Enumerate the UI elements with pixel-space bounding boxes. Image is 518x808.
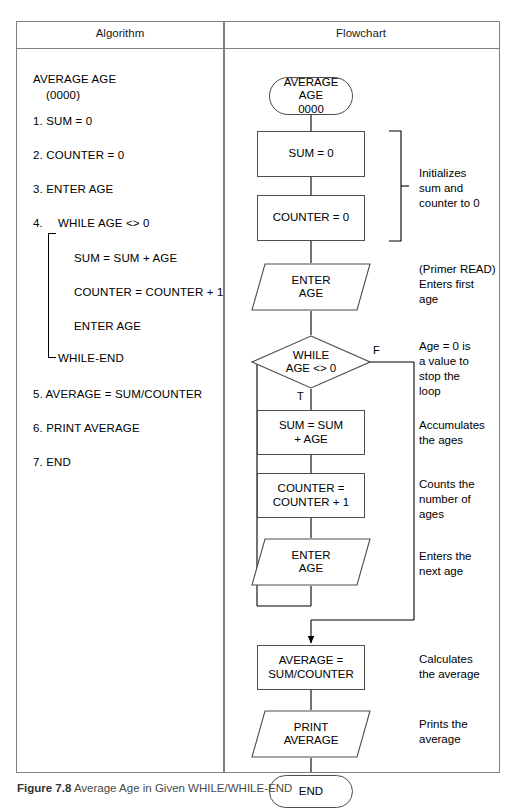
flowchart-node-counter-increment: COUNTER = COUNTER + 1 <box>257 473 365 518</box>
print-line-2: AVERAGE <box>284 734 339 748</box>
algorithm-title: AVERAGE AGE <box>33 73 116 85</box>
algorithm-step-4-number: 4. <box>33 217 43 229</box>
figure-caption-label: Figure 7.8 <box>17 782 71 794</box>
note-initialize: Initializes sum and counter to 0 <box>419 166 480 211</box>
flowchart-node-print-average: PRINT AVERAGE <box>251 710 371 758</box>
average-line-1: AVERAGE = <box>279 654 344 668</box>
column-header-algorithm: Algorithm <box>17 27 223 39</box>
algorithm-step-4-enter: ENTER AGE <box>74 320 141 332</box>
start-line-3: 0000 <box>298 103 324 117</box>
algorithm-step-4-counter: COUNTER = COUNTER + 1 <box>74 286 223 298</box>
branch-label-true: T <box>297 390 304 402</box>
algorithm-step-5: 5. AVERAGE = SUM/COUNTER <box>33 388 202 400</box>
algorithm-step-4-sum: SUM = SUM + AGE <box>74 252 177 264</box>
note-next-age: Enters the next age <box>419 549 471 579</box>
column-header-flowchart: Flowchart <box>223 27 499 39</box>
note-accumulate: Accumulates the ages <box>419 418 485 448</box>
sum-accum-line-2: + AGE <box>294 433 328 447</box>
algorithm-flowchart-table: Algorithm Flowchart AVERAGE AGE (0000) 1… <box>16 21 500 773</box>
decision-line-2: AGE <> 0 <box>286 362 337 376</box>
flowchart-node-average: AVERAGE = SUM/COUNTER <box>257 645 365 690</box>
enter-age-primer-line-1: ENTER <box>292 274 331 288</box>
flowchart-node-start: AVERAGE AGE 0000 <box>269 77 353 115</box>
flowchart-node-enter-age-next: ENTER AGE <box>251 538 371 586</box>
algorithm-step-4-while: WHILE AGE <> 0 <box>58 217 150 229</box>
algorithm-step-6: 6. PRINT AVERAGE <box>33 422 140 434</box>
while-loop-bracket <box>48 233 56 358</box>
algorithm-step-7: 7. END <box>33 456 71 468</box>
start-line-1: AVERAGE <box>284 76 339 90</box>
note-stop-loop: Age = 0 is a value to stop the loop <box>419 339 470 399</box>
figure-caption: Figure 7.8 Average Age in Given WHILE/WH… <box>17 782 292 794</box>
counter-inc-line-1: COUNTER = <box>278 482 345 496</box>
algorithm-subtitle: (0000) <box>46 89 80 101</box>
flowchart-node-sum-init: SUM = 0 <box>257 131 365 177</box>
algorithm-step-1: 1. SUM = 0 <box>33 115 92 127</box>
flowchart-node-counter-init: COUNTER = 0 <box>257 195 365 241</box>
note-print: Prints the average <box>419 717 468 747</box>
start-line-2: AGE <box>299 89 323 103</box>
algorithm-step-2: 2. COUNTER = 0 <box>33 149 124 161</box>
note-calculate: Calculates the average <box>419 652 480 682</box>
figure-caption-text: Average Age in Given WHILE/WHILE-END <box>74 782 292 794</box>
branch-label-false: F <box>373 344 380 356</box>
counter-inc-line-2: COUNTER + 1 <box>273 496 349 510</box>
print-line-1: PRINT <box>294 721 329 735</box>
note-count: Counts the number of ages <box>419 477 475 522</box>
enter-age-next-line-2: AGE <box>299 562 323 576</box>
enter-age-next-line-1: ENTER <box>292 549 331 563</box>
average-line-2: SUM/COUNTER <box>268 668 354 682</box>
algorithm-column: AVERAGE AGE (0000) 1. SUM = 0 2. COUNTER… <box>17 49 223 772</box>
algorithm-step-3: 3. ENTER AGE <box>33 183 113 195</box>
note-primer-read: (Primer READ) Enters first age <box>419 262 496 307</box>
enter-age-primer-line-2: AGE <box>299 287 323 301</box>
flowchart-node-enter-age-primer: ENTER AGE <box>251 263 371 311</box>
sum-accum-line-1: SUM = SUM <box>279 419 343 433</box>
decision-line-1: WHILE <box>293 349 329 363</box>
algorithm-step-4-whileend: WHILE-END <box>58 352 124 364</box>
flowchart-node-sum-accumulate: SUM = SUM + AGE <box>257 410 365 455</box>
flowchart-node-while-decision: WHILE AGE <> 0 <box>251 335 371 389</box>
flowchart-column: AVERAGE AGE 0000 SUM = 0 COUNTER = 0 ENT… <box>223 49 499 772</box>
